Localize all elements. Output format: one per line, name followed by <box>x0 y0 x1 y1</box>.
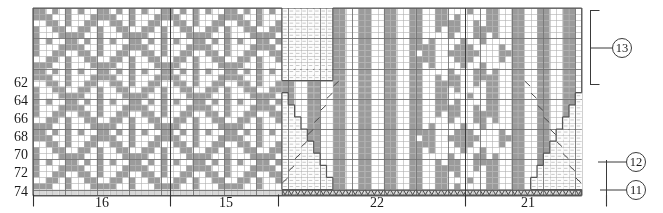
column-label: 15 <box>206 196 246 210</box>
callout-marker: 13 <box>612 38 632 58</box>
column-label: 22 <box>357 196 397 210</box>
callout-marker: 11 <box>626 180 646 200</box>
row-label: 66 <box>2 112 28 126</box>
row-label: 64 <box>2 94 28 108</box>
row-label: 72 <box>2 166 28 180</box>
column-label: 16 <box>82 196 122 210</box>
row-label: 62 <box>2 76 28 90</box>
row-label: 74 <box>2 185 28 199</box>
row-label: 70 <box>2 148 28 162</box>
callout-marker: 12 <box>626 152 646 172</box>
chart-grid-canvas <box>0 0 663 213</box>
knitting-chart: 62646668707274 16152221 131211 <box>0 0 663 213</box>
row-label: 68 <box>2 130 28 144</box>
column-label: 21 <box>508 196 548 210</box>
